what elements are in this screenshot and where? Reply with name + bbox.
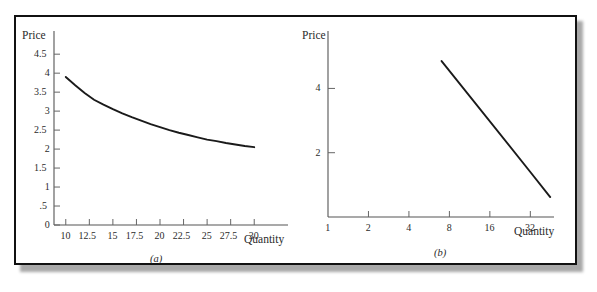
panel-b-caption: (b) <box>434 248 446 259</box>
panel-b-y-tick-label-1: 2 <box>315 148 320 158</box>
panel-a-demand-curve <box>66 77 254 147</box>
panel-a-caption: (a) <box>150 254 162 265</box>
panel-a-y-tick-label-1: 4 <box>45 68 50 78</box>
figure-frame: Price Quantity 4.543.532.521.51.50 1012.… <box>14 15 577 265</box>
panel-a-x-tick-label-1: 12.5 <box>79 231 97 241</box>
panel-b-x-tick-label-2: 4 <box>406 223 411 233</box>
panel-a-x-ticks <box>66 219 254 225</box>
panel-a-y-tick-label-0: 4.5 <box>34 49 47 59</box>
panel-b-x-tick-label-5: 32 <box>525 223 535 233</box>
figure-root: Price Quantity 4.543.532.521.51.50 1012.… <box>0 0 597 292</box>
panel-a-x-tick-label-4: 20 <box>155 231 165 241</box>
panel-a-y-tick-label-4: 2.5 <box>34 125 47 135</box>
panel-a-x-tick-label-5: 22.5 <box>173 231 191 241</box>
panel-a-y-tick-label-3: 3 <box>45 106 50 116</box>
panel-a-x-tick-label-7: 27.5 <box>220 231 238 241</box>
panel-a-y-tick-label-5: 2 <box>45 144 50 154</box>
panel-a: Price Quantity 4.543.532.521.51.50 1012.… <box>16 17 306 263</box>
panel-a-x-tick-label-6: 25 <box>202 231 212 241</box>
panel-b: Price Quantity 42 12481632 (b) <box>306 17 575 263</box>
panel-b-demand-line <box>442 61 551 197</box>
panel-a-y-tick-label-7: 1 <box>45 182 50 192</box>
panel-b-y-tick-label-0: 4 <box>315 83 320 93</box>
panel-a-x-tick-label-0: 10 <box>60 231 70 241</box>
panel-a-y-tick-label-2: 3.5 <box>34 87 47 97</box>
panel-b-x-tick-label-0: 1 <box>325 223 330 233</box>
panel-b-x-ticks <box>368 211 530 217</box>
panel-b-y-ticks <box>328 88 335 152</box>
panel-a-y-tick-label-6: 1.5 <box>34 163 47 173</box>
panel-a-y-tick-label-9: 0 <box>45 220 50 230</box>
panel-b-x-tick-label-1: 2 <box>366 223 371 233</box>
panel-a-y-tick-label-8: .5 <box>39 201 47 211</box>
panel-a-y-ticks <box>54 54 60 225</box>
panel-b-y-axis-title: Price <box>302 30 326 42</box>
panel-b-x-tick-label-4: 16 <box>484 223 494 233</box>
panel-b-x-tick-label-3: 8 <box>447 223 452 233</box>
panel-a-x-tick-label-8: 30 <box>249 231 259 241</box>
panel-a-y-axis-title: Price <box>22 30 46 42</box>
panel-a-x-tick-label-2: 15 <box>107 231 117 241</box>
panel-a-x-tick-label-3: 17.5 <box>126 231 144 241</box>
